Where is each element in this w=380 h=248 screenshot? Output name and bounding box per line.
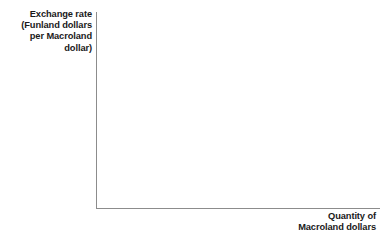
exchange-rate-graph-figure: Exchange rate (Funland dollars per Macro…: [0, 0, 380, 248]
x-axis-line: [96, 208, 380, 209]
plot-area: [97, 12, 380, 208]
y-axis-title: Exchange rate (Funland dollars per Macro…: [0, 9, 92, 54]
x-axis-title: Quantity of Macroland dollars: [226, 211, 376, 233]
